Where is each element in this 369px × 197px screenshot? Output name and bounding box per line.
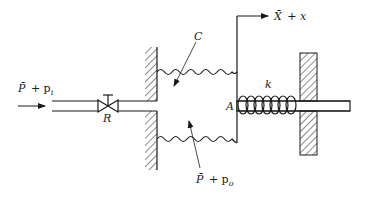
piston-area-label: A xyxy=(225,100,234,113)
inlet-pressure-label: P̄ + pi xyxy=(17,82,54,97)
bellows-leader-line xyxy=(174,42,196,86)
spring-label: k xyxy=(265,78,272,91)
output-displacement-label: X̄ + x xyxy=(273,10,307,23)
bellows-pressure-label: P̄ + po xyxy=(195,173,234,188)
valve-icon xyxy=(98,95,118,112)
valve-label: R xyxy=(102,112,111,125)
bellows-top xyxy=(157,70,237,75)
bellows-pressure-leader-line xyxy=(189,121,200,168)
bellows-actuator-diagram: P̄ + pi R A X̄ + x xyxy=(0,0,369,197)
bellows-bottom xyxy=(157,137,237,144)
bellows-label: C xyxy=(194,30,203,43)
left-wall xyxy=(145,47,157,170)
